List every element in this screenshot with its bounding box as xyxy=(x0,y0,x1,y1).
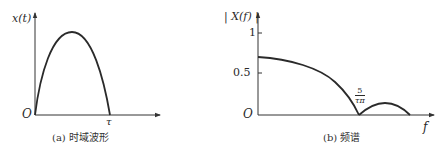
panel-a-origin-label: O xyxy=(22,107,32,121)
figure: x(t) O τ (a) 时域波形 | X(f) | 1 0.5 O 5 τπ … xyxy=(0,0,443,151)
panel-b-y-label: | X(f) | xyxy=(224,10,259,23)
panel-b-side-lobe xyxy=(359,103,410,115)
panel-b-tick-label-1: 1 xyxy=(249,26,256,39)
fraction-numerator: 5 xyxy=(355,86,365,96)
panel-b-main-lobe xyxy=(258,57,359,115)
panel-b-caption: (b) 频谱 xyxy=(323,129,360,144)
panel-b-first-zero-annotation: 5 τπ xyxy=(355,86,365,105)
panel-b-axes xyxy=(258,13,434,115)
panel-b-x-label: f xyxy=(423,120,427,134)
panel-b-origin-label: O xyxy=(243,107,253,121)
panel-b-tick-label-05: 0.5 xyxy=(233,66,251,79)
fraction-denominator: τπ xyxy=(355,96,365,105)
panel-a-pulse-curve xyxy=(35,32,110,115)
panel-a-tau-label: τ xyxy=(106,116,112,127)
panel-a-y-label: x(t) xyxy=(12,12,31,25)
panel-a-caption: (a) 时域波形 xyxy=(52,129,109,144)
